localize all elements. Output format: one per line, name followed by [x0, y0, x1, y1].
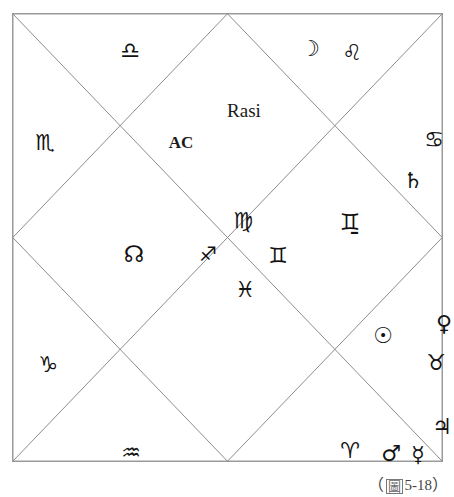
planet-ketu: ♊̱ [340, 211, 361, 234]
ascendant-label: AC [169, 134, 194, 151]
sign-scorpio: ♏ [35, 132, 55, 154]
planet-jupiter: ♃ [432, 416, 452, 438]
rasi-chart: ♎ ♏ ♐ ♑ ♒ ♓ ♈ ♉ ♊ ♋ ♌ ♍ ☽ ♄ ♊̱ ☊ ☉ ♀ ♃ ♂… [12, 13, 443, 462]
sign-libra: ♎ [120, 40, 140, 62]
sign-virgo: ♍ [233, 210, 253, 232]
sign-cancer: ♋ [424, 129, 444, 151]
sign-sagittarius: ♐ [199, 244, 217, 264]
chart-title: Rasi [227, 101, 261, 120]
planet-rahu: ☊ [124, 243, 144, 266]
sign-aries: ♈ [340, 440, 360, 462]
planet-saturn: ♄ [403, 170, 423, 192]
sign-taurus: ♉ [426, 352, 446, 374]
sign-gemini: ♊ [268, 245, 288, 267]
sign-capricorn: ♑ [38, 354, 58, 376]
caption-cjk-char: 圖 [386, 479, 403, 494]
planet-venus: ♀ [436, 313, 452, 335]
sign-leo: ♌ [342, 42, 362, 64]
planet-mercury: ☿ [411, 444, 425, 466]
caption-close-paren: ） [432, 476, 448, 493]
figure-caption: （圖5-18） [368, 477, 449, 494]
sign-aquarius: ♒ [121, 442, 141, 464]
planet-moon: ☽ [300, 38, 320, 60]
caption-number: 5-18 [405, 477, 433, 493]
planet-mars: ♂ [381, 443, 401, 465]
caption-open-paren: （ [368, 476, 384, 493]
sign-pisces: ♓ [235, 279, 255, 301]
chart-lines [12, 13, 443, 462]
figure-page: ♎ ♏ ♐ ♑ ♒ ♓ ♈ ♉ ♊ ♋ ♌ ♍ ☽ ♄ ♊̱ ☊ ☉ ♀ ♃ ♂… [0, 0, 454, 497]
planet-sun: ☉ [373, 325, 393, 347]
